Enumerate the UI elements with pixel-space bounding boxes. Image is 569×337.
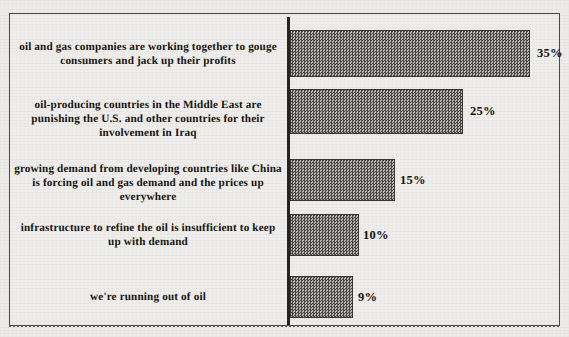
bar-segment — [290, 30, 530, 77]
bar-value-label: 9% — [358, 290, 377, 305]
chart-frame: oil and gas companies are working togeth… — [9, 13, 560, 326]
chart-row: we're running out of oil 9% — [10, 276, 561, 332]
scanned-chart-page: · · oil and gas companies are working to… — [0, 0, 569, 337]
bar-category-label: we're running out of oil — [14, 290, 282, 304]
bar-category-label: infrastructure to refine the oil is insu… — [14, 221, 282, 249]
chart-row: oil-producing countries in the Middle Ea… — [10, 89, 561, 149]
chart-row: infrastructure to refine the oil is insu… — [10, 214, 561, 270]
bar-category-label: growing demand from developing countries… — [14, 162, 282, 205]
bar-segment — [290, 159, 395, 201]
bar-segment — [290, 89, 463, 134]
bar-value-label: 35% — [537, 46, 563, 61]
chart-row: oil and gas companies are working togeth… — [10, 22, 561, 82]
bar-category-label: oil and gas companies are working togeth… — [14, 40, 282, 68]
chart-row: growing demand from developing countries… — [10, 154, 561, 212]
bar-segment — [290, 276, 353, 318]
bar-segment — [290, 214, 359, 256]
bar-value-label: 10% — [363, 228, 389, 243]
bar-value-label: 25% — [470, 104, 496, 119]
bar-category-label: oil-producing countries in the Middle Ea… — [14, 98, 282, 141]
bar-value-label: 15% — [400, 173, 426, 188]
bar-chart-plot-area: oil and gas companies are working togeth… — [10, 14, 559, 325]
clipped-text-above-figure: · · — [0, 0, 569, 3]
